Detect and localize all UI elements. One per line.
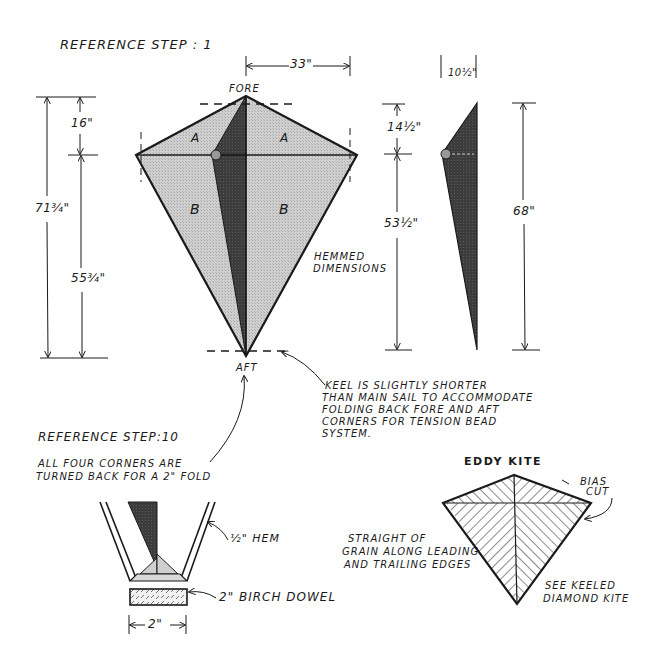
step10-note-line2: TURNED BACK FOR A 2" FOLD [36,471,211,483]
kite-plan-drawing: REFERENCE STEP : 1 33" FORE AFT A A B B … [0,0,664,669]
reference-step-10-title: REFERENCE STEP:10 [38,431,179,444]
eddy-kite-title: EDDY KITE [464,455,542,468]
grain-note-line3: AND TRAILING EDGES [344,559,471,571]
panel-label-b-left: B [190,203,201,216]
keel-note-line1: KEEL IS SLIGHTLY SHORTER [325,380,488,392]
hem-label: ½" HEM [230,533,280,545]
grain-note-line2: GRAIN ALONG LEADING [342,546,479,558]
aft-label: AFT [236,362,258,374]
aft-length-dimension: 55¾" [70,272,106,285]
overall-length-dimension: 71¾" [34,202,70,215]
fore-label: FORE [229,83,260,95]
see-note-line1: SEE KEELED [545,580,616,592]
keel-note-line2: THAN MAIN SAIL TO ACCOMMODATE [322,392,533,404]
keel-width-dimension: 10½" [447,66,478,79]
keel-note-line5: SYSTEM. [322,428,372,440]
fore-length-dimension: 16" [70,117,94,130]
see-note-line2: DIAMOND KITE [543,593,629,605]
keel-side-view [441,103,477,350]
fold-width-dimension: 2" [147,618,163,631]
keel-fore-dimension: 14½" [386,121,422,134]
reference-step-1-title: REFERENCE STEP : 1 [60,38,213,51]
grain-note-line1: STRAIGHT OF [348,533,426,545]
panel-label-a-left: A [191,132,201,145]
keel-overall-dimension: 68" [512,205,536,218]
panel-label-b-right: B [279,203,290,216]
step10-note-line1: ALL FOUR CORNERS ARE [38,458,182,470]
hemmed-note-line2: DIMENSIONS [313,263,387,275]
birch-dowel-label: 2" BIRCH DOWEL [219,591,336,603]
panel-label-a-right: A [280,132,290,145]
bias-cut-label-line2: CUT [586,486,609,498]
keel-note-line4: CORNERS FOR TENSION BEAD [322,416,497,428]
sail-width-dimension: 33" [289,58,313,71]
drawing-lines [0,0,664,669]
main-kite [136,96,357,356]
keel-aft-dimension: 53½" [383,217,419,230]
hemmed-note-line1: HEMMED [314,251,365,263]
keel-note-line3: FOLDING BACK FORE AND AFT [322,404,500,416]
corner-fold-detail [100,502,228,634]
